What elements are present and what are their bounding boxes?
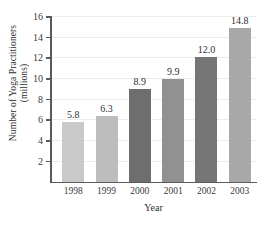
bar-group: 14.8 [229,28,251,181]
bar-group: 8.9 [129,89,151,181]
bar [162,79,184,181]
bar [96,116,118,181]
bars-layer: 5.86.38.99.912.014.8 [50,16,257,182]
bar-group: 12.0 [195,57,217,181]
bar-value-label: 9.9 [167,66,180,77]
y-tick-label: 14 [33,31,43,42]
y-tick-label: 2 [38,155,43,166]
x-tick-label: 2001 [164,186,183,196]
bar-chart: Number of Yoga Practitioners (millions) … [0,0,272,225]
bar-group: 6.3 [96,116,118,181]
x-axis-title: Year [50,202,257,213]
y-tick-label: 6 [38,114,43,125]
bar [195,57,217,181]
y-axis-title-line1: Number of Yoga Practitioners [8,0,19,168]
bar-group: 9.9 [162,79,184,181]
bar [129,89,151,181]
y-axis-title: Number of Yoga Practitioners (millions) [8,0,38,168]
y-tick-label: 10 [33,73,43,84]
x-tick-label: 2003 [230,186,249,196]
y-tick-label: 8 [38,93,43,104]
bar-value-label: 14.8 [231,15,249,26]
x-tick-label: 2000 [130,186,149,196]
bar [62,122,84,182]
x-tick-label: 1999 [97,186,116,196]
bar-value-label: 12.0 [198,44,216,55]
y-axis-title-line2: (millions) [19,0,30,168]
bar-value-label: 5.8 [67,109,80,120]
y-tick-label: 16 [33,11,43,22]
bar-value-label: 8.9 [134,76,147,87]
x-axis-tick-labels: 199819992000200120022003 [50,186,257,200]
x-tick-label: 2002 [197,186,216,196]
plot-area: 246810121416 5.86.38.99.912.014.8 [50,16,257,183]
bar [229,28,251,181]
y-tick-label: 12 [33,52,43,63]
x-axis-line [50,182,257,184]
y-tick-label: 4 [38,135,43,146]
x-tick-label: 1998 [64,186,83,196]
bar-group: 5.8 [62,122,84,182]
bar-value-label: 6.3 [100,103,113,114]
